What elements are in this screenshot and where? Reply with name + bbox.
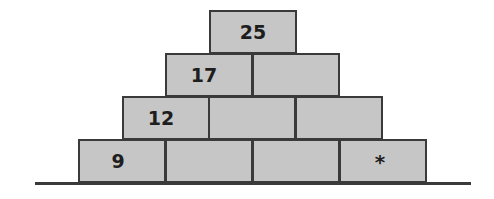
block-value: 12 bbox=[148, 107, 174, 129]
pyramid-block-r3-c2 bbox=[208, 96, 296, 140]
pyramid-block-r3-c3 bbox=[295, 96, 383, 140]
pyramid-block-r3-c1: 12 bbox=[122, 96, 210, 140]
block-value: 17 bbox=[191, 64, 217, 86]
pyramid-block-r4-c1: 9 bbox=[78, 139, 166, 183]
pyramid-block-r1-c1: 25 bbox=[209, 10, 297, 54]
pyramid-block-r4-c4: * bbox=[339, 139, 427, 183]
pyramid-block-r2-c1: 17 bbox=[165, 53, 253, 97]
block-value: 9 bbox=[111, 150, 124, 172]
pyramid-block-r2-c2 bbox=[252, 53, 340, 97]
pyramid-block-r4-c3 bbox=[252, 139, 340, 183]
block-value: 25 bbox=[240, 21, 266, 43]
ground-line bbox=[35, 182, 471, 185]
pyramid-block-r4-c2 bbox=[165, 139, 253, 183]
asterisk-icon: * bbox=[375, 150, 385, 174]
